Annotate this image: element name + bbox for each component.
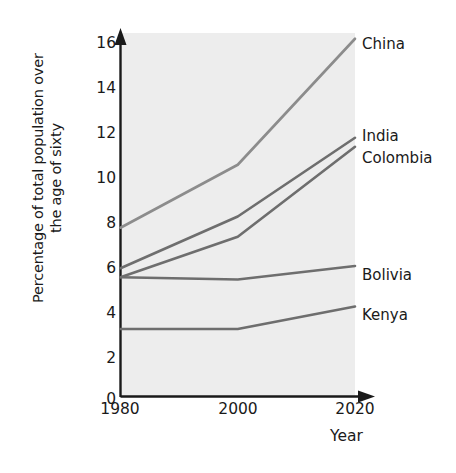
y-tick-10: 10 — [88, 169, 116, 187]
y-tick-2: 2 — [88, 349, 116, 367]
series-label-india: India — [362, 127, 399, 145]
series-line-colombia — [121, 147, 356, 278]
x-tick-2020: 2020 — [320, 400, 390, 418]
x-tick-2000: 2000 — [203, 400, 273, 418]
y-axis-title-line-2: the age of sixty — [47, 13, 65, 343]
y-tick-14: 14 — [88, 79, 116, 97]
x-tick-1980: 1980 — [85, 400, 155, 418]
series-line-kenya — [121, 307, 356, 330]
y-tick-16: 16 — [88, 34, 116, 52]
y-tick-8: 8 — [88, 214, 116, 232]
series-label-kenya: Kenya — [362, 306, 408, 324]
y-axis — [115, 28, 127, 397]
series-label-colombia: Colombia — [362, 149, 433, 167]
x-axis-title: Year — [330, 427, 363, 445]
line-chart: Percentage of total population over the … — [0, 0, 456, 473]
y-tick-12: 12 — [88, 124, 116, 142]
y-axis-title: Percentage of total population over the … — [29, 13, 65, 343]
y-tick-4: 4 — [88, 304, 116, 322]
series-line-china — [121, 39, 356, 228]
y-axis-title-line-1: Percentage of total population over — [29, 13, 47, 343]
series-line-bolivia — [121, 266, 356, 280]
y-tick-6: 6 — [88, 259, 116, 277]
series-label-bolivia: Bolivia — [362, 266, 412, 284]
series-label-china: China — [362, 35, 405, 53]
data-series-layer — [121, 39, 356, 329]
series-line-india — [121, 138, 356, 269]
